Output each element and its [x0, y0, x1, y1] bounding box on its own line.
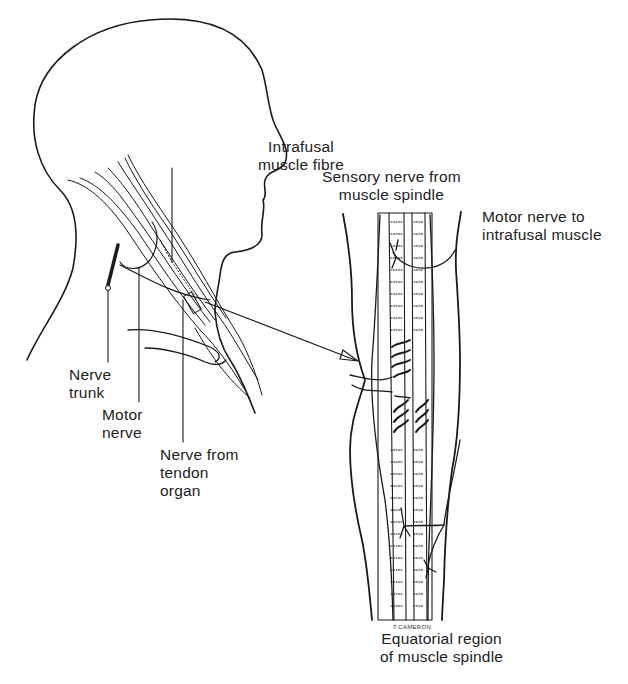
label-nerve-trunk: Nerve trunk	[69, 366, 111, 402]
annulospiral-ending	[392, 340, 428, 432]
magnification-arrow	[205, 302, 358, 361]
label-nerve-from-tendon-organ: Nerve from tendon organ	[160, 446, 239, 500]
label-equatorial-region: Equatorial region of muscle spindle	[380, 630, 503, 666]
artist-signature: T.CAMERON.	[393, 624, 433, 630]
spindle-diagram	[0, 0, 628, 684]
spindle-inner-lines	[372, 215, 434, 620]
striations	[391, 222, 424, 606]
label-sensory-nerve-from-spindle: Sensory nerve from muscle spindle	[322, 168, 461, 204]
label-motor-nerve-to-intrafusal: Motor nerve to intrafusal muscle	[482, 208, 602, 244]
label-motor-nerve: Motor nerve	[102, 406, 143, 442]
intrafusal-fibres	[378, 213, 432, 620]
motor-nerve-top	[390, 240, 455, 268]
neck-muscle-fibres	[68, 155, 262, 398]
clavicle	[128, 330, 226, 365]
sensory-nerve	[350, 375, 410, 398]
